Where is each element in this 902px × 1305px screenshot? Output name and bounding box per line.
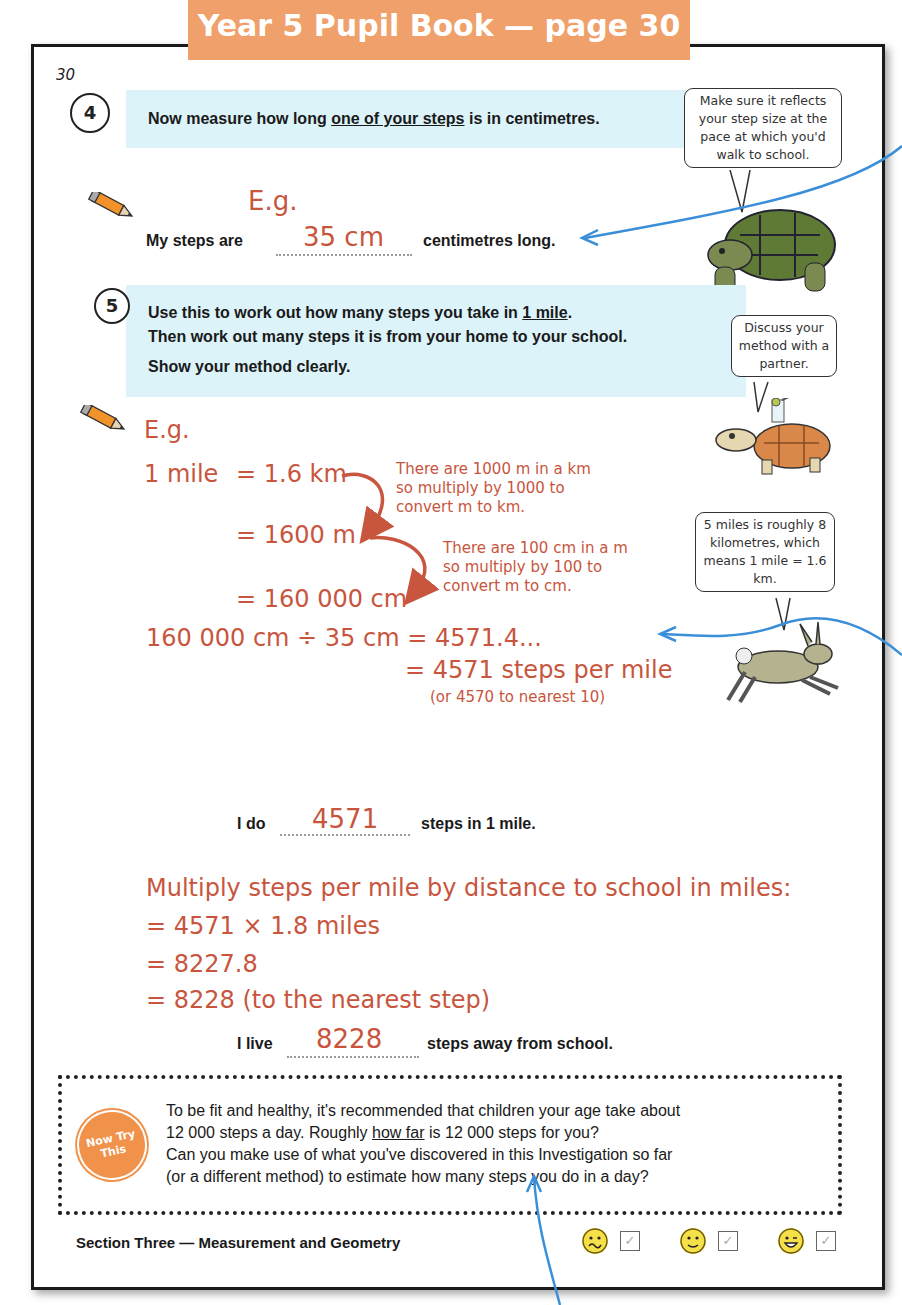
q4-text-part: Now measure how long bbox=[148, 110, 331, 127]
example-label-q5: E.g. bbox=[144, 416, 190, 444]
conversion-note-2: There are 100 cm in a m so multiply by 1… bbox=[443, 539, 628, 596]
ntt-text-part: 12 000 steps a day. Roughly bbox=[166, 1124, 372, 1141]
ntt-line-1: To be fit and healthy, it's recommended … bbox=[166, 1100, 680, 1122]
ntt-line-4: (or a different method) to estimate how … bbox=[166, 1166, 680, 1188]
page-number: 30 bbox=[56, 66, 75, 84]
steps-per-mile-prefix: I do bbox=[237, 815, 265, 833]
now-try-this-text: To be fit and healthy, it's recommended … bbox=[166, 1100, 680, 1188]
note-line: convert m to cm. bbox=[443, 577, 628, 596]
section-footer: Section Three — Measurement and Geometry bbox=[76, 1234, 400, 1251]
steps-to-school-prefix: I live bbox=[237, 1035, 273, 1053]
tip-bubble-discuss: Discuss your method with a partner. bbox=[731, 315, 837, 377]
tip-bubble-miles-km: 5 miles is roughly 8 kilometres, which m… bbox=[695, 512, 835, 592]
q5-text-part: Use this to work out how many steps you … bbox=[148, 304, 522, 321]
question-4-text: Now measure how long one of your steps i… bbox=[148, 110, 600, 128]
question-5-line-2: Then work out many steps it is from your… bbox=[148, 328, 627, 346]
rounding-note: (or 4570 to nearest 10) bbox=[430, 688, 605, 706]
question-5-number: 5 bbox=[94, 288, 130, 324]
question-5-line-1: Use this to work out how many steps you … bbox=[148, 304, 572, 322]
steps-per-mile-result: = 4571 steps per mile bbox=[405, 656, 672, 684]
pencil-icon bbox=[80, 405, 132, 435]
division-line: 160 000 cm ÷ 35 cm = 4571.4... bbox=[146, 624, 542, 652]
steps-to-school-value: 8228 bbox=[316, 1024, 382, 1054]
ntt-line-3: Can you make use of what you've discover… bbox=[166, 1144, 680, 1166]
ntt-underlined: how far bbox=[372, 1124, 424, 1141]
note-line: so multiply by 100 to bbox=[443, 558, 628, 577]
school-working-line-1: Multiply steps per mile by distance to s… bbox=[146, 874, 791, 902]
note-line: There are 100 cm in a m bbox=[443, 539, 628, 558]
steps-answer-suffix: centimetres long. bbox=[423, 232, 555, 250]
steps-to-school-suffix: steps away from school. bbox=[427, 1035, 613, 1053]
tip-bubble-step-size: Make sure it reflects your step size at … bbox=[684, 88, 842, 168]
conversion-arrows bbox=[330, 470, 450, 610]
worried-face-icon bbox=[582, 1228, 608, 1254]
neutral-smile-face-icon bbox=[680, 1228, 706, 1254]
happy-wink-face-icon bbox=[778, 1228, 804, 1254]
checkbox-happy[interactable]: ✓ bbox=[816, 1231, 836, 1251]
ntt-text-part: is 12 000 steps for you? bbox=[425, 1124, 599, 1141]
example-label-q4: E.g. bbox=[248, 186, 297, 216]
q4-text-part: is in centimetres. bbox=[465, 110, 600, 127]
steps-per-mile-suffix: steps in 1 mile. bbox=[421, 815, 536, 833]
ntt-line-2: 12 000 steps a day. Roughly how far is 1… bbox=[166, 1122, 680, 1144]
checkbox-worried[interactable]: ✓ bbox=[620, 1231, 640, 1251]
school-working-line-4: = 8228 (to the nearest step) bbox=[146, 986, 490, 1014]
question-4-number: 4 bbox=[70, 93, 110, 133]
hare-illustration bbox=[720, 622, 845, 707]
steps-per-mile-value: 4571 bbox=[312, 804, 378, 834]
working-line-1-left: 1 mile bbox=[144, 460, 218, 488]
steps-answer-prefix: My steps are bbox=[146, 232, 243, 250]
tortoise-with-drink-illustration bbox=[714, 398, 839, 478]
q4-underlined: one of your steps bbox=[331, 110, 464, 127]
self-assessment: ✓ ✓ ✓ bbox=[582, 1228, 836, 1254]
school-working-line-3: = 8227.8 bbox=[146, 950, 258, 978]
school-working-line-2: = 4571 × 1.8 miles bbox=[146, 912, 380, 940]
steps-length-value: 35 cm bbox=[303, 222, 384, 252]
pencil-icon bbox=[88, 192, 140, 222]
q5-underlined: 1 mile bbox=[522, 304, 567, 321]
question-5-line-3: Show your method clearly. bbox=[148, 358, 350, 376]
checkbox-neutral[interactable]: ✓ bbox=[718, 1231, 738, 1251]
page-banner: Year 5 Pupil Book — page 30 bbox=[188, 0, 690, 60]
q5-text-part: . bbox=[568, 304, 572, 321]
